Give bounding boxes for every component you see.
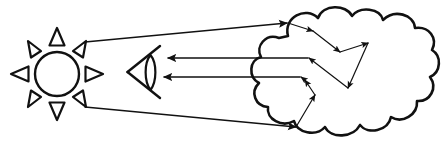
cloud [251, 7, 439, 135]
cloud-outline [251, 7, 439, 135]
sun-ray-se [73, 91, 86, 108]
light-scattering-diagram: Sun Eye Cloud [0, 0, 444, 150]
scatter-seg-u4 [348, 43, 368, 88]
sun-ray-sw [28, 91, 41, 108]
eye [128, 46, 161, 98]
scatter-path-upper [288, 23, 368, 88]
sun-to-cloud-upper-ray [85, 23, 287, 42]
sun-ray-n [50, 28, 65, 46]
sun-ray-nw [28, 41, 41, 58]
sun-to-cloud-lower-ray [85, 107, 296, 127]
scatter-seg-l1 [296, 95, 315, 127]
sun-ray-e [86, 67, 104, 82]
scatter-seg-u1 [288, 23, 313, 31]
eye-lens [146, 55, 156, 90]
sun-ray-s [50, 103, 65, 121]
scatter-seg-u3 [340, 43, 368, 52]
scatter-seg-u2 [313, 31, 340, 52]
sun-ray-w [11, 67, 29, 82]
scatter-path-lower [296, 77, 315, 127]
sun-disc [35, 52, 79, 96]
outgoing-rays [164, 58, 308, 77]
scatter-seg-l2 [305, 80, 315, 95]
diagram-canvas [0, 0, 444, 150]
sun-ray-ne [73, 41, 86, 58]
scatter-seg-u5 [309, 58, 348, 88]
scatter-seg-l3 [301, 77, 305, 80]
